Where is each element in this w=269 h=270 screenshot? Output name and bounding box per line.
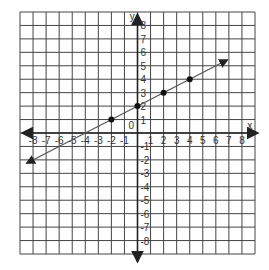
y-tick-label: -6	[141, 209, 150, 220]
y-tick-label: 4	[141, 74, 147, 85]
x-tick-label: -5	[68, 135, 77, 146]
x-axis-label: x	[247, 120, 252, 131]
data-point	[108, 117, 114, 123]
data-point	[135, 103, 141, 109]
y-tick-label: -8	[141, 236, 150, 247]
x-tick-label: 5	[200, 135, 206, 146]
y-tick-label: 3	[141, 88, 147, 99]
x-tick-label: -3	[94, 135, 103, 146]
x-tick-label: -7	[42, 135, 51, 146]
coordinate-plane: -8-7-6-5-4-3-2-11234567887654321-1-2-3-4…	[0, 0, 269, 270]
x-tick-label: -4	[81, 135, 90, 146]
x-tick-label: 8	[239, 135, 245, 146]
y-tick-label: 6	[141, 47, 147, 58]
data-point	[187, 76, 193, 82]
y-tick-label: 8	[141, 20, 147, 31]
origin-label: 0	[129, 120, 135, 131]
x-tick-label: 3	[174, 135, 180, 146]
x-tick-label: 4	[187, 135, 193, 146]
y-tick-label: 5	[141, 61, 147, 72]
y-axis-label: y	[130, 11, 135, 22]
y-tick-label: -4	[141, 182, 150, 193]
y-tick-label: -2	[141, 155, 150, 166]
x-tick-label: -8	[29, 135, 38, 146]
y-tick-label: 1	[141, 115, 147, 126]
y-tick-label: -5	[141, 195, 150, 206]
plotted-line	[27, 60, 228, 164]
x-tick-label: 6	[213, 135, 219, 146]
x-tick-label: 2	[161, 135, 167, 146]
x-tick-label: 7	[226, 135, 232, 146]
y-tick-label: 7	[141, 34, 147, 45]
x-tick-label: -1	[120, 135, 129, 146]
y-tick-label: -7	[141, 222, 150, 233]
x-tick-label: -2	[107, 135, 116, 146]
y-tick-label: -1	[141, 141, 150, 152]
y-tick-label: -3	[141, 168, 150, 179]
data-point	[161, 90, 167, 96]
